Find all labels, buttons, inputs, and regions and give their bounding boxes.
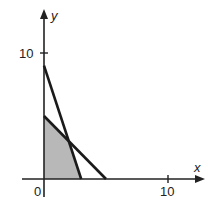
y-axis-arrow-icon (40, 9, 48, 19)
x-axis-arrow-icon (195, 175, 205, 183)
y-tick-label-10: 10 (19, 46, 33, 61)
x-axis-label: x (193, 160, 201, 175)
x-tick-label-10: 10 (160, 184, 174, 199)
y-axis-label: y (50, 8, 59, 23)
chart: y x 0 10 10 (0, 0, 208, 206)
origin-label: 0 (34, 184, 41, 199)
